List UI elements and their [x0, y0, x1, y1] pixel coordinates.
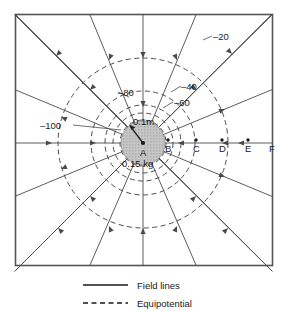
- point-label-E: E: [245, 143, 251, 154]
- sphere-radius-label: 0.1m: [133, 116, 154, 127]
- legend-label-field-lines: Field lines: [137, 280, 180, 291]
- point-dot-E: [246, 138, 249, 141]
- point-dot-C: [194, 138, 197, 141]
- point-label-C: C: [193, 143, 200, 154]
- equipotential-label-neg40: –40: [181, 81, 197, 92]
- point-dot-D: [220, 138, 223, 141]
- equipotential-label-neg80: –80: [118, 87, 134, 98]
- legend-label-equipotential: Equipotential: [137, 298, 192, 309]
- sphere-mass-label: 0.15 kg: [122, 158, 153, 169]
- equipotential-label-neg60: –60: [174, 97, 190, 108]
- equipotential-label-neg100: –100: [40, 120, 61, 131]
- point-dot-B: [166, 138, 169, 141]
- legend: Field lines Equipotential: [83, 280, 192, 309]
- point-label-A: A: [140, 147, 147, 158]
- point-dot-A: [141, 141, 145, 145]
- point-label-D: D: [219, 143, 226, 154]
- figure-root: 0.1m A 0.15 kg B C D E F –20 –40 –60 –80…: [0, 0, 285, 311]
- point-label-F: F: [269, 143, 275, 154]
- point-label-B: B: [165, 143, 171, 154]
- field-diagram-svg: 0.1m A 0.15 kg B C D E F –20 –40 –60 –80…: [0, 0, 285, 311]
- equipotential-label-neg20: –20: [213, 31, 229, 42]
